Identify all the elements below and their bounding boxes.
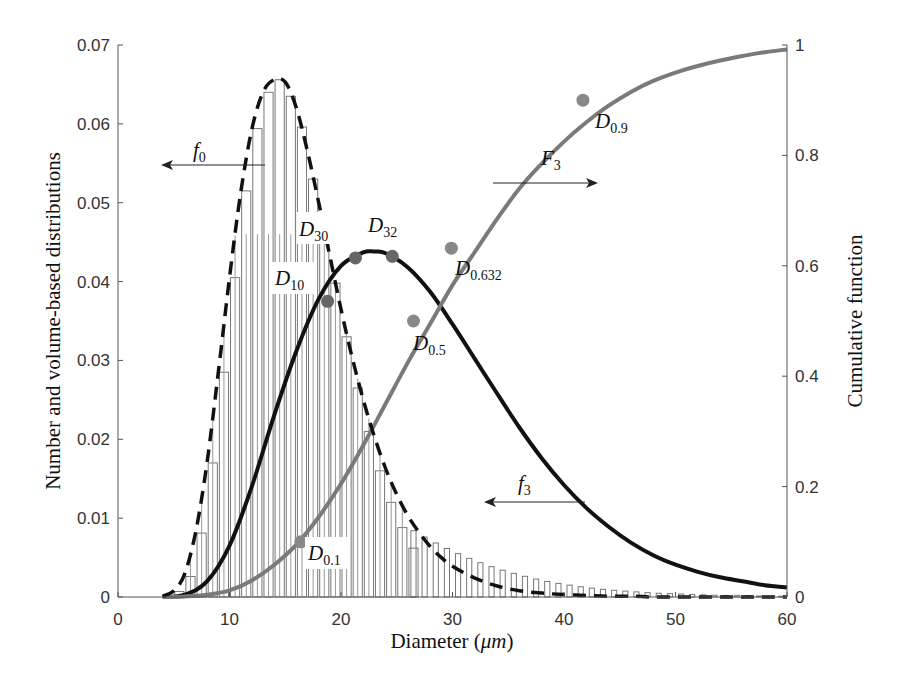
- d09-label: D0.9: [594, 109, 628, 136]
- f0-label: f0: [193, 138, 206, 165]
- f0-dashed-curve: [163, 78, 787, 597]
- y2-tick-label: 0.2: [795, 478, 819, 497]
- marker-labels: D30 D10 D32 D0.632 D0.5 D0.1 D0.9: [272, 109, 628, 569]
- f3-curve: [163, 251, 787, 597]
- marker-d0632: [445, 242, 458, 255]
- right-y-axis-title: Cumulative function: [843, 234, 867, 408]
- tail-bar: [489, 567, 494, 597]
- x-tick-label: 60: [778, 610, 797, 629]
- y-tick-label: 0.03: [77, 351, 110, 370]
- d05-label: D0.5: [412, 331, 446, 358]
- y-tick-label: 0: [101, 588, 110, 607]
- y-tick-label: 0.06: [77, 115, 110, 134]
- x-tick-label: 20: [332, 610, 351, 629]
- y-tick-label: 0.07: [77, 36, 110, 55]
- tail-bar: [545, 581, 550, 597]
- tail-bar: [433, 543, 438, 597]
- y-tick-label: 0.01: [77, 509, 110, 528]
- left-y-axis-ticks: 00.010.020.030.040.050.060.07: [77, 36, 123, 607]
- marker-d05: [407, 315, 420, 328]
- tail-bar: [411, 531, 416, 597]
- d0632-label: D0.632: [454, 256, 502, 283]
- x-tick-label: 30: [443, 610, 462, 629]
- tail-bar: [589, 588, 594, 597]
- tail-bar: [522, 576, 527, 597]
- marker-d09: [576, 94, 589, 107]
- y2-tick-label: 0.8: [795, 146, 819, 165]
- tail-bar: [500, 570, 505, 597]
- f0-histogram-bars: [175, 80, 418, 597]
- x-axis-title: Diameter (μm): [390, 629, 513, 653]
- tail-bar: [567, 585, 572, 597]
- f0-bar: [409, 548, 418, 597]
- y2-tick-label: 1: [795, 36, 804, 55]
- left-y-axis-title: Number and volume-based distributions: [41, 152, 65, 490]
- y2-tick-label: 0: [795, 588, 804, 607]
- marker-d32: [386, 250, 399, 263]
- y-tick-label: 0.02: [77, 430, 110, 449]
- distribution-chart: 0102030405060 00.010.020.030.040.050.060…: [0, 0, 905, 687]
- f3-label: f3: [518, 471, 531, 498]
- tail-bar: [422, 537, 427, 597]
- marker-d10: [321, 295, 334, 308]
- tail-bar: [444, 549, 449, 597]
- marker-d30: [349, 251, 362, 264]
- y-tick-label: 0.05: [77, 194, 110, 213]
- tail-bar: [456, 554, 461, 597]
- tail-bar: [511, 573, 516, 597]
- x-tick-label: 0: [113, 610, 122, 629]
- d32-label: D32: [367, 213, 397, 240]
- x-tick-label: 10: [220, 610, 239, 629]
- x-axis-ticks: 0102030405060: [113, 592, 796, 629]
- x-tick-label: 40: [555, 610, 574, 629]
- y-tick-label: 0.04: [77, 273, 110, 292]
- y2-tick-label: 0.6: [795, 257, 819, 276]
- F3-annotation: F3: [493, 146, 598, 188]
- F3-cumulative-curve: [163, 49, 787, 597]
- y2-tick-label: 0.4: [795, 367, 819, 386]
- x-tick-label: 50: [666, 610, 685, 629]
